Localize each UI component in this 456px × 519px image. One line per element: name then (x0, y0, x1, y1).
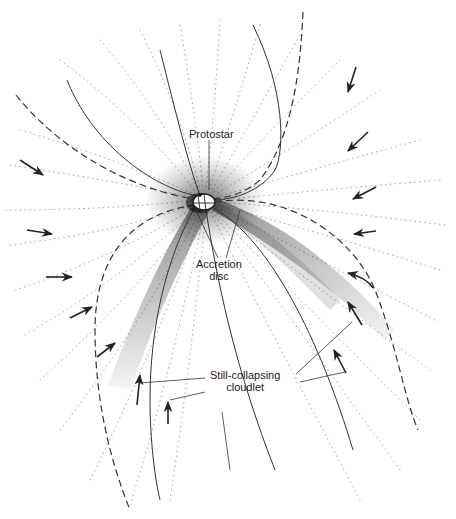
arrow-icon (70, 307, 92, 318)
arrow-icon (334, 350, 346, 373)
accretion-disc-label-line1: Accretion (196, 258, 242, 270)
accretion-disc-label: Accretion disc (196, 258, 242, 282)
cloudlet-arrows (137, 302, 362, 424)
arrow-icon (27, 230, 52, 234)
arrow-icon (354, 231, 376, 234)
still-collapsing-cloudlet-label: Still-collapsing cloudlet (210, 369, 280, 393)
protostar-label: Protostar (189, 128, 234, 140)
accretion-disc-label-line2: disc (196, 270, 242, 282)
arrow-icon (97, 343, 115, 357)
cloudlet-label-line1: Still-collapsing (210, 369, 280, 381)
arrow-icon (348, 132, 368, 151)
lower-right-dashed-curve (215, 200, 418, 430)
cloudlet-label-line2: cloudlet (210, 381, 280, 393)
arrow-icon (348, 67, 356, 92)
arrow-icon (353, 187, 376, 199)
arrow-icon (137, 375, 140, 405)
center-lower-solid-line (206, 210, 275, 470)
arrow-icon (20, 160, 43, 175)
